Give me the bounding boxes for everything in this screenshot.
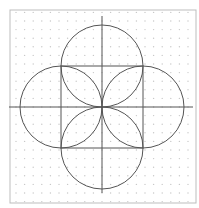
grid-dot: [101, 12, 102, 13]
grid-dot: [179, 167, 180, 168]
grid-dot: [58, 81, 59, 82]
grid-dot: [153, 132, 154, 133]
grid-dot: [15, 46, 16, 47]
grid-dot: [93, 124, 94, 125]
grid-dot: [50, 98, 51, 99]
grid-dot: [24, 29, 25, 30]
grid-dot: [41, 124, 42, 125]
grid-dot: [76, 175, 77, 176]
grid-dot: [58, 167, 59, 168]
grid-dot: [127, 201, 128, 202]
grid-dot: [144, 149, 145, 150]
grid-dot: [170, 124, 171, 125]
grid-dot: [84, 12, 85, 13]
grid-dot: [76, 158, 77, 159]
grid-dot: [153, 63, 154, 64]
grid-dot: [127, 63, 128, 64]
grid-dot: [50, 89, 51, 90]
grid-dot: [93, 149, 94, 150]
grid-dot: [144, 124, 145, 125]
grid-dot: [136, 20, 137, 21]
grid-dot: [67, 132, 68, 133]
grid-dot: [24, 115, 25, 116]
grid-dot: [170, 141, 171, 142]
grid-dot: [110, 124, 111, 125]
grid-dot: [15, 20, 16, 21]
grid-dot: [162, 46, 163, 47]
grid-dot: [50, 81, 51, 82]
grid-dot: [84, 158, 85, 159]
grid-dot: [179, 158, 180, 159]
grid-dot: [67, 149, 68, 150]
grid-dot: [50, 141, 51, 142]
grid-dot: [136, 141, 137, 142]
grid-dot: [162, 167, 163, 168]
grid-dot: [58, 38, 59, 39]
grid-dot: [84, 167, 85, 168]
grid-dot: [33, 46, 34, 47]
grid-dot: [187, 89, 188, 90]
grid-dot: [15, 63, 16, 64]
grid-dot: [187, 158, 188, 159]
grid-dot: [67, 72, 68, 73]
grid-dot: [110, 38, 111, 39]
grid-dot: [67, 98, 68, 99]
grid-dot: [15, 149, 16, 150]
grid-dot: [24, 38, 25, 39]
grid-dot: [67, 175, 68, 176]
grid-dot: [58, 192, 59, 193]
grid-dot: [76, 132, 77, 133]
grid-dot: [144, 132, 145, 133]
grid-dot: [136, 132, 137, 133]
grid-dot: [58, 98, 59, 99]
grid-dot: [127, 72, 128, 73]
grid-dot: [144, 46, 145, 47]
grid-dot: [84, 55, 85, 56]
grid-dot: [41, 38, 42, 39]
grid-dot: [127, 158, 128, 159]
grid-dot: [119, 46, 120, 47]
grid-dot: [76, 81, 77, 82]
grid-dot: [162, 184, 163, 185]
grid-dot: [110, 158, 111, 159]
grid-dot: [119, 175, 120, 176]
grid-dot: [179, 132, 180, 133]
grid-dot: [136, 38, 137, 39]
grid-dot: [170, 167, 171, 168]
grid-dot: [84, 63, 85, 64]
grid-dot: [153, 141, 154, 142]
grid-dot: [33, 63, 34, 64]
grid-dot: [162, 158, 163, 159]
grid-dot: [15, 89, 16, 90]
grid-dot: [76, 55, 77, 56]
grid-dot: [144, 115, 145, 116]
grid-dot: [41, 132, 42, 133]
grid-dot: [136, 12, 137, 13]
grid-dot: [119, 201, 120, 202]
grid-dot: [84, 89, 85, 90]
grid-dot: [84, 98, 85, 99]
grid-dot: [67, 63, 68, 64]
grid-dot: [15, 132, 16, 133]
grid-dot: [58, 158, 59, 159]
grid-dot: [58, 63, 59, 64]
grid-dot: [110, 55, 111, 56]
grid-dot: [179, 38, 180, 39]
grid-dot: [136, 72, 137, 73]
grid-dot: [119, 55, 120, 56]
grid-dot: [76, 184, 77, 185]
grid-dot: [119, 158, 120, 159]
grid-dot: [187, 29, 188, 30]
grid-dot: [144, 20, 145, 21]
grid-dot: [24, 132, 25, 133]
grid-dot: [119, 98, 120, 99]
grid-dot: [50, 55, 51, 56]
grid-dot: [84, 115, 85, 116]
grid-dot: [50, 20, 51, 21]
grid-dot: [24, 81, 25, 82]
grid-dot: [187, 12, 188, 13]
grid-dot: [76, 72, 77, 73]
grid-dot: [127, 132, 128, 133]
grid-dot: [153, 20, 154, 21]
grid-dot: [33, 158, 34, 159]
